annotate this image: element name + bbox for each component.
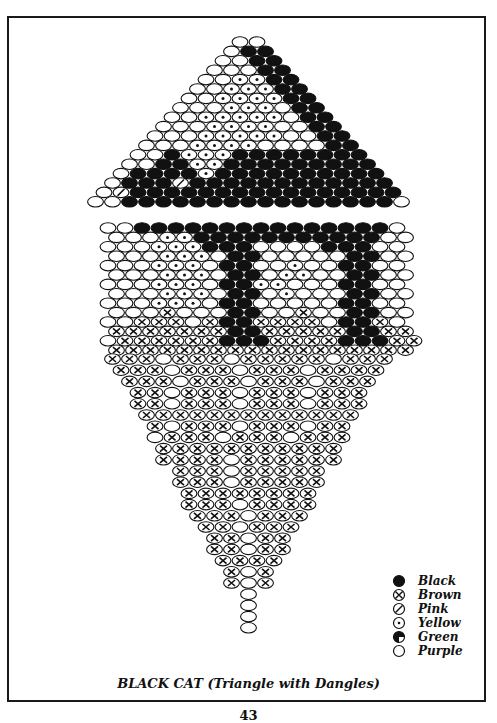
bead xyxy=(190,477,206,488)
bead xyxy=(292,511,308,522)
bead xyxy=(198,365,214,376)
bead xyxy=(283,488,299,499)
bead xyxy=(275,103,291,114)
bead xyxy=(139,354,155,365)
bead xyxy=(164,399,180,410)
bead xyxy=(215,150,231,161)
bead xyxy=(304,242,320,253)
bead xyxy=(173,197,189,208)
bead xyxy=(389,317,405,328)
bead xyxy=(190,84,206,95)
bead xyxy=(207,121,223,132)
bead xyxy=(258,376,274,387)
bead xyxy=(134,298,150,309)
bead xyxy=(168,242,184,253)
bead xyxy=(249,387,265,398)
bead xyxy=(156,376,172,387)
bead xyxy=(304,260,320,271)
bead xyxy=(372,223,388,234)
bead xyxy=(215,421,231,432)
bead xyxy=(181,131,197,142)
bead xyxy=(151,242,167,253)
bead xyxy=(326,197,342,208)
bead xyxy=(300,365,316,376)
bead xyxy=(122,376,138,387)
bead xyxy=(292,159,308,170)
bead xyxy=(343,354,359,365)
bead xyxy=(266,168,282,179)
bead xyxy=(232,56,248,67)
bead xyxy=(173,466,189,477)
bead xyxy=(398,326,414,337)
bead xyxy=(232,131,248,142)
bead xyxy=(364,270,380,281)
bead xyxy=(309,178,325,189)
bead xyxy=(122,178,138,189)
bead xyxy=(207,443,223,454)
bead xyxy=(177,270,193,281)
bead xyxy=(190,140,206,151)
bead xyxy=(241,578,257,589)
bead xyxy=(224,544,240,555)
bead xyxy=(381,326,397,337)
bead xyxy=(236,260,252,271)
bead xyxy=(232,522,248,533)
bead xyxy=(194,251,210,262)
bead xyxy=(338,279,354,290)
bead xyxy=(347,326,363,337)
bead xyxy=(181,432,197,443)
legend-item-brown: Brown xyxy=(392,588,463,602)
bead xyxy=(224,511,240,522)
bead xyxy=(236,317,252,328)
bead xyxy=(275,84,291,95)
bead xyxy=(330,307,346,318)
bead xyxy=(364,307,380,318)
bead xyxy=(275,140,291,151)
bead xyxy=(105,354,121,365)
bead xyxy=(258,46,274,57)
bead xyxy=(211,251,227,262)
bead xyxy=(236,336,252,347)
bead xyxy=(117,260,133,271)
bead xyxy=(317,421,333,432)
bead xyxy=(258,84,274,95)
bead xyxy=(207,84,223,95)
bead xyxy=(389,298,405,309)
bead xyxy=(173,103,189,114)
bead xyxy=(190,376,206,387)
bead xyxy=(292,178,308,189)
bead xyxy=(266,93,282,104)
bead xyxy=(143,307,159,318)
legend: Black Brown Pink Yellow Green Purple xyxy=(392,574,463,658)
bead xyxy=(258,159,274,170)
bead xyxy=(258,477,274,488)
bead xyxy=(343,197,359,208)
bead xyxy=(109,307,125,318)
bead xyxy=(147,168,163,179)
bead xyxy=(253,223,269,234)
bead xyxy=(292,121,308,132)
bead xyxy=(275,533,291,544)
bead xyxy=(360,197,376,208)
bead xyxy=(270,336,286,347)
bead xyxy=(296,307,312,318)
bead xyxy=(100,317,116,328)
bead xyxy=(100,260,116,271)
bead xyxy=(330,232,346,243)
bead xyxy=(224,578,240,589)
bead xyxy=(389,260,405,271)
bead xyxy=(258,578,274,589)
bead xyxy=(100,242,116,253)
bead xyxy=(241,611,257,622)
bead xyxy=(249,37,265,48)
legend-item-purple: Purple xyxy=(392,644,463,658)
bead xyxy=(117,242,133,253)
bead xyxy=(249,522,265,533)
bead xyxy=(168,279,184,290)
bead xyxy=(309,121,325,132)
bead xyxy=(258,354,274,365)
bead xyxy=(241,455,257,466)
bead xyxy=(185,279,201,290)
bead xyxy=(372,242,388,253)
bead xyxy=(266,150,282,161)
